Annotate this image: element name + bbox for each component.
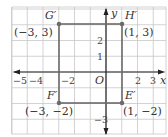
y-tick-label: 2 — [97, 35, 103, 46]
y-tick-label: 1 — [97, 51, 103, 62]
y-axis-label: y — [110, 7, 118, 20]
x-axis-left-arrow-icon — [13, 70, 20, 75]
y-tick-label: −3 — [94, 114, 108, 125]
vertex-h-coords: (1, 3) — [124, 26, 154, 39]
x-tick-label: 2 — [135, 75, 141, 86]
vertex-h-label: H′ — [124, 9, 138, 22]
vertex-f-label: F′ — [46, 89, 58, 102]
x-axis — [13, 70, 165, 75]
coordinate-plane-figure: y x O −5 −4 −2 2 3 2 1 −3 G′ H′ E′ F′ (−… — [0, 0, 168, 137]
vertex-g-dot — [57, 22, 62, 27]
vertex-e-label: E′ — [124, 89, 136, 102]
vertex-g-coords: (−3, 3) — [14, 26, 53, 39]
vertex-f-coords: (−3, −2) — [25, 105, 73, 118]
vertex-g-label: G′ — [45, 9, 57, 22]
x-tick-label: −5 — [13, 75, 27, 86]
vertex-e-coords: (1, −2) — [123, 105, 162, 118]
origin-label: O — [95, 74, 104, 87]
x-axis-label: x — [160, 74, 167, 87]
x-tick-label: −2 — [61, 75, 75, 86]
x-tick-label: −4 — [29, 75, 43, 86]
x-tick-label: 3 — [150, 75, 156, 86]
